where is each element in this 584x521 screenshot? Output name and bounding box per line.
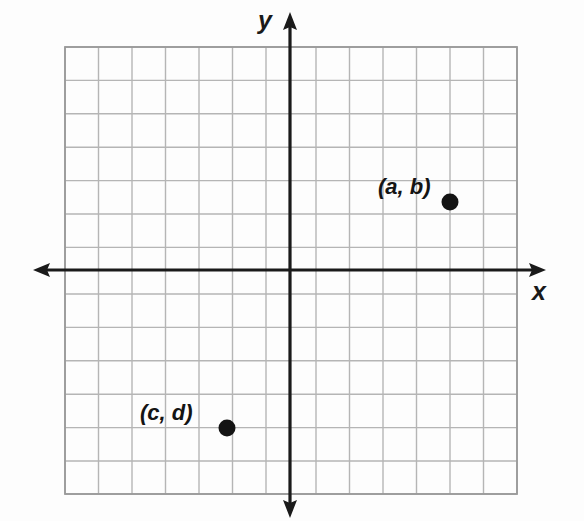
y-axis-label: y — [258, 8, 272, 33]
point-cd-marker[interactable] — [219, 420, 236, 437]
x-axis-label: x — [532, 279, 546, 304]
coordinate-plane-figure: y x (a, b) (c, d) — [0, 0, 584, 521]
graph-canvas — [0, 0, 584, 521]
point-cd-label: (c, d) — [140, 402, 193, 424]
point-ab-label: (a, b) — [378, 176, 431, 198]
point-ab-marker[interactable] — [442, 194, 459, 211]
figure-background — [0, 0, 584, 521]
